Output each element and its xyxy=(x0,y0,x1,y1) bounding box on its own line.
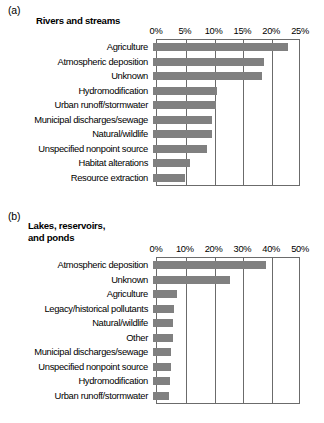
bar-track xyxy=(152,302,296,317)
bar-category-label: Unknown xyxy=(0,275,152,285)
bar-track xyxy=(152,345,296,360)
bar-category-label: Hydromodification xyxy=(0,86,152,96)
x-tick-label: 5% xyxy=(178,26,191,36)
panel-a-x-axis-labels: 0%5%10%15%20%25% xyxy=(156,26,300,39)
bar-row: Urban runoff/stormwater xyxy=(0,98,324,113)
panel-b: (b) Lakes, reservoirs,and ponds 0%10%20%… xyxy=(0,206,324,423)
bar-track xyxy=(152,127,296,142)
bar xyxy=(153,87,217,95)
bar xyxy=(153,319,173,327)
bar-category-label: Agriculture xyxy=(0,42,152,52)
bar-track xyxy=(152,287,296,302)
bar xyxy=(153,174,185,182)
bar-category-label: Municipal discharges/sewage xyxy=(0,115,152,125)
panel-b-x-axis-labels: 0%10%20%30%40%50% xyxy=(156,244,300,257)
bar-track xyxy=(152,156,296,171)
bar xyxy=(153,159,190,167)
panel-a-title: Rivers and streams xyxy=(36,15,120,27)
bar-category-label: Unspecified nonpoint source xyxy=(0,362,152,372)
x-tick-label: 10% xyxy=(205,26,223,36)
x-tick-label: 10% xyxy=(176,244,194,254)
bar-track xyxy=(152,113,296,128)
bar-row: Legacy/historical pollutants xyxy=(0,302,324,317)
bar-category-label: Urban runoff/stormwater xyxy=(0,391,152,401)
figure-two-panel-bar-charts: (a) Rivers and streams 0%5%10%15%20%25% … xyxy=(0,0,324,423)
bar xyxy=(153,276,230,284)
bar xyxy=(153,58,264,66)
bar-track xyxy=(152,331,296,346)
bar-row: Municipal discharges/sewage xyxy=(0,345,324,360)
bar-track xyxy=(152,316,296,331)
bar xyxy=(153,130,212,138)
bar-row: Atmospheric deposition xyxy=(0,258,324,273)
bar-track xyxy=(152,360,296,375)
x-tick-label: 0% xyxy=(150,26,163,36)
bar-row: Natural/wildlife xyxy=(0,127,324,142)
bar xyxy=(153,101,216,109)
bar-category-label: Habitat alterations xyxy=(0,158,152,168)
bar-category-label: Unknown xyxy=(0,71,152,81)
bar-row: Municipal discharges/sewage xyxy=(0,113,324,128)
bar-category-label: Other xyxy=(0,333,152,343)
x-tick-label: 20% xyxy=(262,26,280,36)
bar-row: Other xyxy=(0,331,324,346)
bar xyxy=(153,377,170,385)
bar-row: Unknown xyxy=(0,273,324,288)
bar-category-label: Resource extraction xyxy=(0,173,152,183)
bar xyxy=(153,392,169,400)
bar-track xyxy=(152,171,296,186)
bar xyxy=(153,116,212,124)
x-tick-label: 30% xyxy=(234,244,252,254)
bar-track xyxy=(152,40,296,55)
bar-track xyxy=(152,389,296,404)
bar xyxy=(153,348,171,356)
panel-a-bar-rows: AgricultureAtmospheric depositionUnknown… xyxy=(0,39,324,187)
bar-category-label: Atmospheric deposition xyxy=(0,57,152,67)
bar-row: Natural/wildlife xyxy=(0,316,324,331)
bar-row: Urban runoff/stormwater xyxy=(0,389,324,404)
bar-track xyxy=(152,273,296,288)
bar-category-label: Legacy/historical pollutants xyxy=(0,304,152,314)
panel-b-bar-rows: Atmospheric depositionUnknownAgriculture… xyxy=(0,257,324,405)
bar-category-label: Municipal discharges/sewage xyxy=(0,347,152,357)
bar xyxy=(153,363,171,371)
x-tick-label: 40% xyxy=(262,244,280,254)
bar-track xyxy=(152,142,296,157)
bar-track xyxy=(152,55,296,70)
bar-row: Agriculture xyxy=(0,287,324,302)
bar xyxy=(153,261,266,269)
bar-row: Unspecified nonpoint source xyxy=(0,142,324,157)
bar-row: Agriculture xyxy=(0,40,324,55)
x-tick-label: 25% xyxy=(291,26,309,36)
bar-track xyxy=(152,258,296,273)
x-tick-label: 20% xyxy=(205,244,223,254)
panel-a: (a) Rivers and streams 0%5%10%15%20%25% … xyxy=(0,0,324,206)
bar-track xyxy=(152,98,296,113)
bar-category-label: Unspecified nonpoint source xyxy=(0,144,152,154)
bar-row: Atmospheric deposition xyxy=(0,55,324,70)
bar-row: Hydromodification xyxy=(0,374,324,389)
panel-a-letter: (a) xyxy=(8,4,20,16)
bar xyxy=(153,72,262,80)
bar-category-label: Atmospheric deposition xyxy=(0,260,152,270)
panel-b-title: Lakes, reservoirs,and ponds xyxy=(28,220,148,243)
bar-track xyxy=(152,69,296,84)
bar xyxy=(153,334,173,342)
bar-track xyxy=(152,374,296,389)
x-tick-label: 15% xyxy=(234,26,252,36)
bar-track xyxy=(152,84,296,99)
bar-category-label: Urban runoff/stormwater xyxy=(0,100,152,110)
bar xyxy=(153,145,207,153)
bar-row: Habitat alterations xyxy=(0,156,324,171)
bar xyxy=(153,290,177,298)
bar-category-label: Natural/wildlife xyxy=(0,318,152,328)
bar xyxy=(153,43,288,51)
panel-b-chart: 0%10%20%30%40%50% Atmospheric deposition… xyxy=(0,244,324,405)
x-tick-label: 50% xyxy=(291,244,309,254)
bar-category-label: Natural/wildlife xyxy=(0,129,152,139)
panel-b-letter: (b) xyxy=(8,210,20,222)
bar-row: Unknown xyxy=(0,69,324,84)
bar-category-label: Hydromodification xyxy=(0,376,152,386)
x-tick-label: 0% xyxy=(150,244,163,254)
bar-category-label: Agriculture xyxy=(0,289,152,299)
